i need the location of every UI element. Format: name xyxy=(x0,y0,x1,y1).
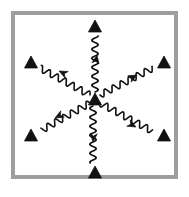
radiating-arrows-diagram xyxy=(0,0,189,197)
figure-root xyxy=(0,0,189,197)
